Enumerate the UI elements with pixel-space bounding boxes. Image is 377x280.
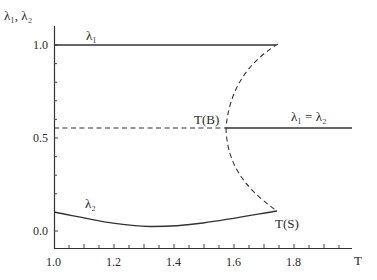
y-tick-label-0.0: 0.0 [33, 224, 48, 238]
unstable-branch-upper [226, 44, 278, 128]
unstable-branch-lower [226, 128, 277, 211]
lambda-equal-label: λ₁ = λ₂ [291, 109, 327, 124]
x-ticks [69, 244, 339, 248]
tb-label: T(B) [194, 112, 219, 127]
x-tick-label-1.6: 1.6 [226, 255, 241, 269]
x-tick-label-1.2: 1.2 [106, 255, 121, 269]
x-tick-label-1.8: 1.8 [286, 255, 301, 269]
lambda1-label: λ₁ [86, 28, 97, 43]
ts-label: T(S) [275, 216, 299, 231]
phase-diagram-chart: λ₁, λ₂ T 1.0 0.5 0.0 1.0 1.2 1.4 1.6 1.8… [0, 0, 377, 280]
axes [54, 26, 352, 249]
lambda2-curve [54, 211, 277, 227]
x-axis-label: T [354, 253, 362, 268]
y-axis-label: λ₁, λ₂ [4, 8, 32, 23]
x-tick-label-1.0: 1.0 [46, 255, 61, 269]
x-tick-label-1.4: 1.4 [166, 255, 181, 269]
y-tick-label-1.0: 1.0 [33, 38, 48, 52]
lambda2-label: λ₂ [85, 196, 96, 211]
y-tick-label-0.5: 0.5 [33, 131, 48, 145]
